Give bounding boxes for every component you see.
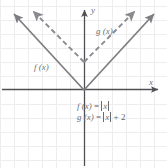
equation-g-function: g (x) [77, 112, 94, 122]
equation-f-equals: = [94, 101, 99, 111]
equation-legend: f (x) = x g (x) = x + 2 [77, 101, 125, 123]
curve-f-left-branch [14, 14, 84, 90]
axes [2, 10, 158, 166]
equation-f-function: f (x) [77, 101, 92, 111]
curve-g-right-branch [84, 11, 135, 62]
equation-g-equals: = [96, 112, 101, 122]
x-axis-label: x [149, 78, 153, 87]
curve-label-f: f (x) [34, 63, 49, 72]
equation-line-f: f (x) = x [77, 101, 125, 112]
equation-f-absolute-value: x [101, 101, 109, 111]
absolute-value-graph-figure: y x g (x) f (x) f (x) = x g (x) = x + 2 [0, 0, 167, 168]
equation-g-absolute-value: x [103, 112, 111, 122]
plot-canvas [0, 0, 167, 168]
curve-g-left-branch [33, 11, 84, 62]
y-axis-label: y [91, 6, 95, 15]
curve-f-right-branch [84, 14, 154, 90]
equation-g-tail: + 2 [114, 112, 126, 122]
equation-line-g: g (x) = x + 2 [77, 112, 125, 123]
curve-label-g: g (x) [96, 27, 113, 36]
